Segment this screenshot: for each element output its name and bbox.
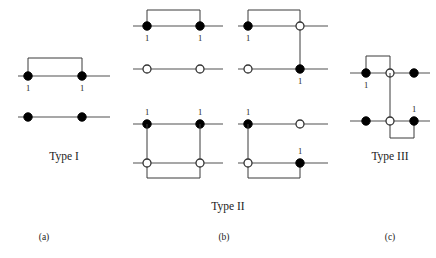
node-filled [143, 120, 151, 128]
node-label: 1 [26, 83, 30, 93]
node-open [296, 22, 304, 30]
node-filled [196, 22, 204, 30]
node-open [386, 117, 394, 125]
node-filled [362, 69, 370, 77]
chord-arc-above [147, 10, 200, 26]
node-open [244, 65, 252, 73]
node-filled [410, 69, 418, 77]
node-open [296, 120, 304, 128]
node-label: 1 [298, 76, 302, 86]
panel-label-a: (a) [22, 232, 66, 242]
diagram-type-1: 1 1 1 1 1 1 1 1 [0, 0, 436, 258]
node-filled [410, 117, 418, 125]
chord-arc-above [28, 58, 82, 76]
node-open [196, 65, 204, 73]
node-label: 1 [80, 83, 84, 93]
chord-arc-above [366, 56, 390, 73]
node-filled [78, 72, 86, 80]
node-open [196, 159, 204, 167]
node-filled [244, 22, 252, 30]
chord-arc-above [248, 10, 300, 26]
node-label: 1 [145, 107, 149, 117]
node-open [244, 159, 252, 167]
type-3-label: Type III [350, 150, 430, 162]
type-1-label: Type I [0, 150, 128, 162]
node-label: 1 [412, 104, 416, 114]
type-2-label: Type II [168, 200, 288, 212]
node-filled [196, 120, 204, 128]
node-label: 1 [198, 33, 202, 43]
node-filled [296, 159, 304, 167]
node-label: 1 [246, 33, 250, 43]
node-filled [24, 113, 32, 121]
node-filled [296, 65, 304, 73]
node-filled [362, 117, 370, 125]
figure-canvas: 1 1 1 1 1 1 1 1 [0, 0, 436, 258]
node-open [143, 65, 151, 73]
chord-arc-below [390, 121, 414, 138]
node-label: 1 [364, 80, 368, 90]
chord-arc-below [147, 163, 200, 178]
chord-arc-below [248, 163, 300, 178]
node-open [143, 159, 151, 167]
node-filled [24, 72, 32, 80]
node-filled [78, 113, 86, 121]
panel-label-c: (c) [368, 232, 412, 242]
node-label: 1 [246, 107, 250, 117]
node-open [386, 69, 394, 77]
node-label: 1 [145, 33, 149, 43]
node-label: 1 [198, 107, 202, 117]
node-label: 1 [298, 146, 302, 156]
node-filled [244, 120, 252, 128]
panel-label-b: (b) [202, 232, 246, 242]
node-filled [143, 22, 151, 30]
